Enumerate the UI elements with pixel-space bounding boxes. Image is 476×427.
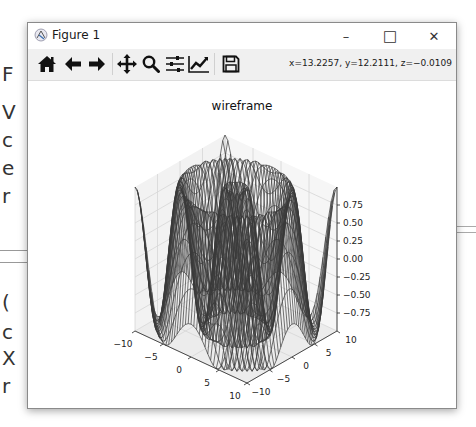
y-tick-label: −10 [252, 387, 271, 397]
background-char: r [2, 184, 10, 208]
home-button[interactable] [34, 51, 60, 77]
background-char: ( [2, 290, 10, 314]
maximize-button[interactable]: □ [368, 23, 412, 49]
background-divider [0, 250, 30, 251]
title-bar[interactable]: Figure 1 – □ ✕ [28, 23, 456, 49]
z-tick-label: 0.25 [343, 236, 363, 246]
toolbar-separator [214, 53, 215, 75]
x-tick-mark [188, 357, 191, 359]
x-tick-mark [244, 383, 247, 385]
y-tick-mark [247, 383, 250, 385]
x-tick-label: 5 [204, 378, 210, 388]
line-chart-icon [188, 55, 210, 73]
cursor-coordinates: x=13.2257, y=12.2111, z=−0.0109 [289, 58, 452, 68]
matplotlib-app-icon [34, 28, 48, 42]
floppy-disk-icon [222, 55, 240, 73]
x-tick-mark [160, 344, 163, 346]
background-char: V [2, 100, 16, 124]
move-icon [117, 54, 137, 74]
y-tick-label: 0 [303, 361, 309, 371]
x-tick-mark [216, 370, 219, 372]
customize-button[interactable] [186, 51, 212, 77]
y-tick-label: 10 [345, 335, 357, 345]
z-tick-label: −0.25 [343, 272, 371, 282]
back-button[interactable] [60, 51, 86, 77]
background-divider [456, 232, 476, 233]
zoom-button[interactable] [138, 51, 164, 77]
z-tick-label: 0.00 [343, 254, 363, 264]
y-tick-label: −5 [277, 374, 290, 384]
y-tick-label: 5 [326, 348, 332, 358]
subplots-button[interactable] [162, 51, 188, 77]
background-char: X [2, 346, 16, 370]
background-char: c [2, 320, 13, 344]
x-tick-mark [132, 331, 135, 333]
background-char: F [2, 62, 14, 86]
figure-canvas[interactable]: wireframe −10−50510−10−50510−0.75−0.50−0… [28, 81, 456, 408]
y-tick-mark [315, 344, 318, 346]
minimize-button[interactable]: – [324, 23, 368, 49]
toolbar-separator [112, 53, 113, 75]
arrow-left-icon [64, 56, 82, 72]
background-char: r [2, 374, 10, 398]
x-tick-label: −10 [114, 339, 133, 349]
window-title: Figure 1 [52, 28, 100, 42]
x-tick-label: 0 [176, 365, 182, 375]
z-tick-label: 0.75 [343, 200, 363, 210]
maximize-icon: □ [383, 27, 397, 45]
pan-button[interactable] [114, 51, 140, 77]
close-button[interactable]: ✕ [412, 23, 456, 49]
magnifier-icon [142, 55, 160, 73]
x-tick-label: 10 [229, 391, 241, 401]
figure-window: Figure 1 – □ ✕ [27, 22, 457, 409]
sliders-icon [165, 55, 185, 73]
home-icon [37, 55, 57, 73]
navigation-toolbar: x=13.2257, y=12.2111, z=−0.0109 [28, 49, 456, 81]
z-tick-label: 0.50 [343, 218, 363, 228]
x-tick-label: −5 [144, 352, 157, 362]
close-icon: ✕ [429, 29, 440, 44]
background-char: e [2, 156, 14, 180]
y-tick-mark [270, 370, 273, 372]
arrow-right-icon [88, 56, 106, 72]
z-tick-label: −0.50 [343, 290, 371, 300]
z-tick-label: −0.75 [343, 308, 371, 318]
background-divider [456, 226, 476, 227]
y-tick-mark [337, 331, 340, 333]
y-tick-mark [292, 357, 295, 359]
forward-button[interactable] [84, 51, 110, 77]
background-divider [0, 262, 30, 263]
save-button[interactable] [218, 51, 244, 77]
minimize-icon: – [343, 29, 350, 44]
background-char: c [2, 128, 13, 152]
wireframe-axes[interactable]: −10−50510−10−50510−0.75−0.50−0.250.000.2… [28, 81, 456, 408]
